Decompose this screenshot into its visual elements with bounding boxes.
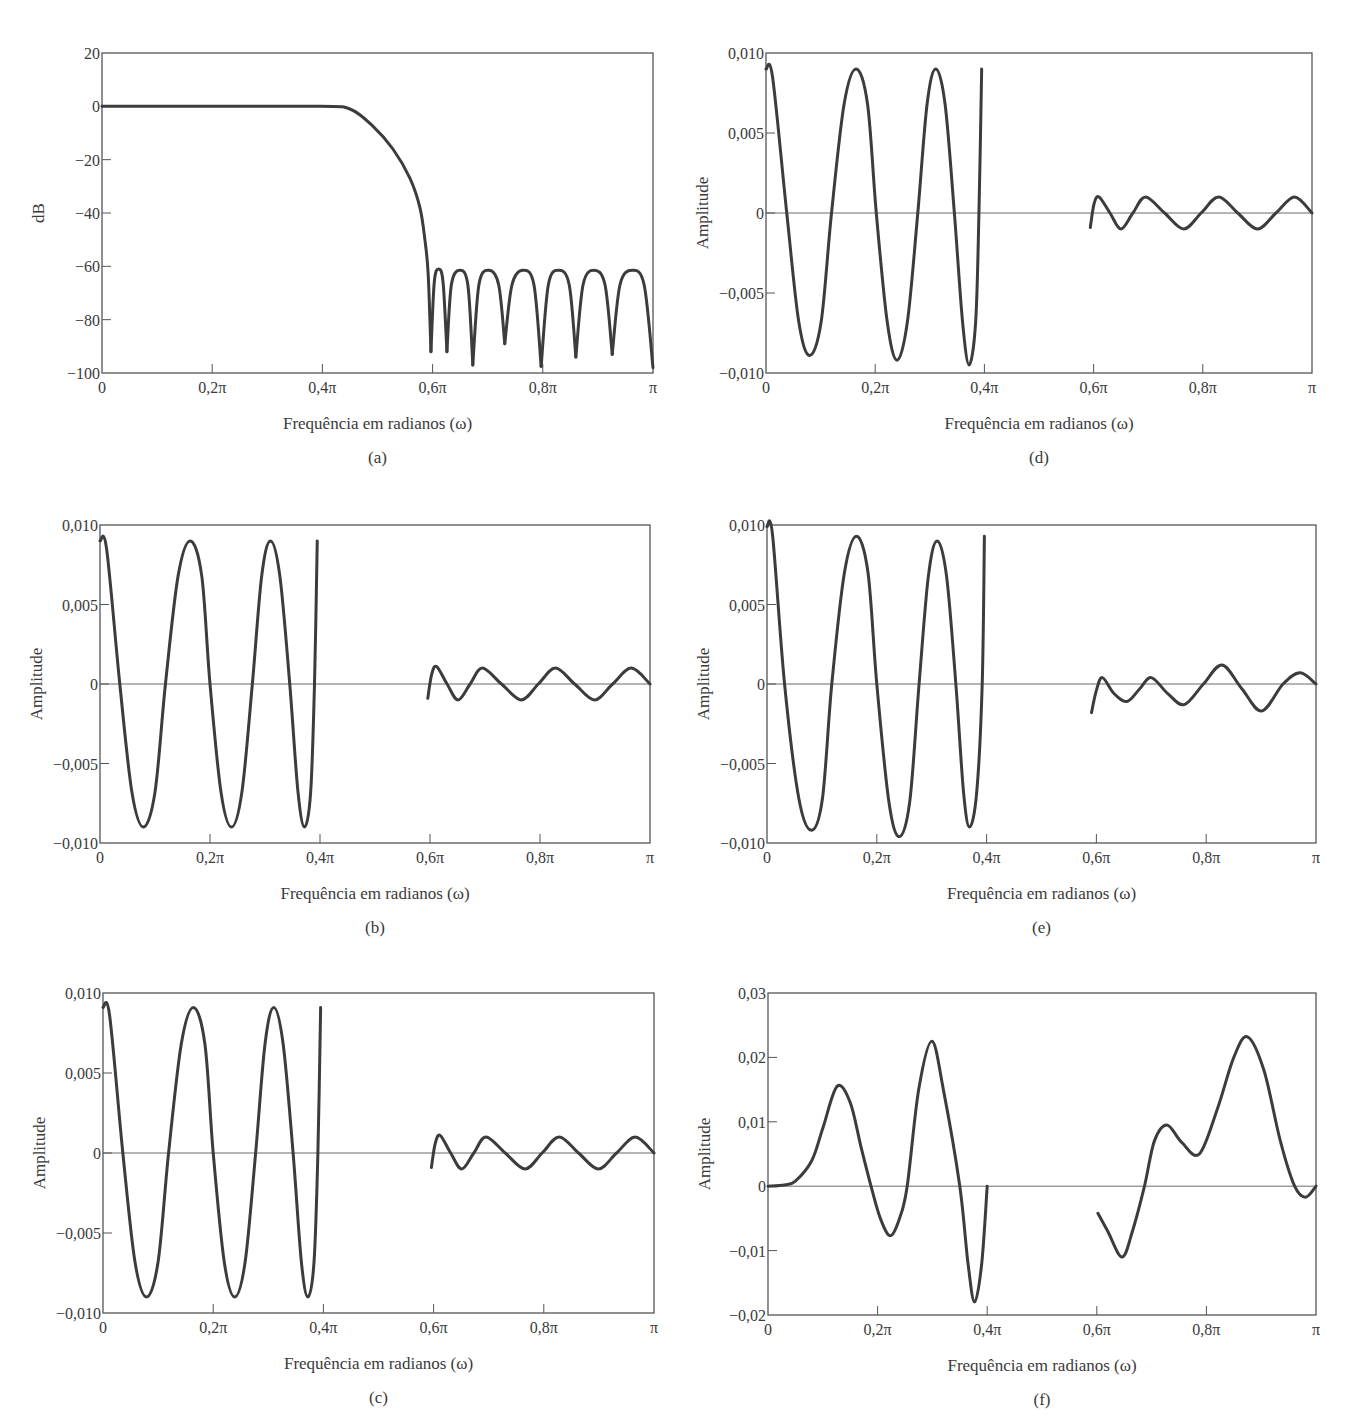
y-tick-label: −60 [75,258,100,275]
panel-label: (c) [369,1388,388,1407]
x-tick-label: 0,8π [1189,379,1217,396]
x-tick-label: 0,2π [861,379,889,396]
y-tick-label: −100 [67,365,100,382]
x-axis-title: Frequência em radianos (ω) [947,884,1136,903]
y-tick-label: 0,010 [729,517,765,534]
x-tick-label: 0,4π [306,849,334,866]
y-axis-title: Amplitude [695,1118,714,1191]
y-tick-label: −0,005 [719,285,764,302]
x-tick-label: 0,4π [308,379,336,396]
x-tick-label: 0,4π [973,1321,1001,1338]
x-tick-label: 0,8π [526,849,554,866]
panel-label: (f) [1034,1390,1051,1409]
x-tick-label: 0 [762,379,770,396]
x-tick-label: 0,6π [416,849,444,866]
x-tick-label: 0,6π [1080,379,1108,396]
y-tick-label: 0,01 [738,1114,766,1131]
x-tick-label: 0 [764,1321,772,1338]
y-tick-label: 0,010 [65,985,101,1002]
y-tick-label: 0 [756,205,764,222]
y-tick-label: 0,010 [62,517,98,534]
y-tick-label: 0,005 [729,597,765,614]
series-a-segment-2 [431,269,447,352]
y-tick-label: 0,02 [738,1049,766,1066]
series-d-segment-1 [766,64,982,365]
y-tick-label: −0,005 [720,756,765,773]
series-c-segment-2 [431,1135,654,1169]
y-tick-label: 0,005 [728,125,764,142]
y-tick-label: 0,010 [728,45,764,62]
y-tick-label: 0 [92,98,100,115]
x-tick-label: 0 [99,1319,107,1336]
y-tick-label: −0,005 [56,1225,101,1242]
series-a-segment-6 [541,270,576,366]
x-tick-label: 0,2π [198,379,226,396]
panel-e: 0,0100,0050−0,005−0,01000,2π0,4π0,6π0,8π… [694,517,1320,937]
panel-label: (e) [1032,918,1051,937]
x-tick-label: 0,4π [970,379,998,396]
x-tick-label: 0 [763,849,771,866]
x-tick-label: 0,2π [199,1319,227,1336]
x-tick-label: 0,4π [309,1319,337,1336]
x-axis-title: Frequência em radianos (ω) [947,1356,1136,1375]
x-tick-label: 0,8π [530,1319,558,1336]
series-b-segment-2 [428,666,650,700]
y-tick-label: −80 [75,312,100,329]
x-tick-label: 0,4π [973,849,1001,866]
x-axis-title: Frequência em radianos (ω) [283,414,472,433]
x-tick-label: 0 [96,849,104,866]
x-tick-label: π [1312,849,1320,866]
x-tick-label: 0,6π [420,1319,448,1336]
y-tick-label: −0,02 [729,1307,766,1324]
series-a-segment-8 [612,270,653,367]
x-axis-title: Frequência em radianos (ω) [280,884,469,903]
series-a-segment-7 [576,270,612,357]
y-axis-title: dB [29,203,48,223]
y-tick-label: 0,005 [62,597,98,614]
y-tick-label: 0 [90,676,98,693]
x-tick-label: 0,8π [1192,849,1220,866]
panel-f: 0,030,020,010−0,01−0,0200,2π0,4π0,6π0,8π… [695,985,1320,1409]
y-tick-label: 0,03 [738,985,766,1002]
figure-canvas: 200−20−40−60−80−10000,2π0,4π0,6π0,8ππdBF… [0,0,1349,1428]
x-tick-label: 0 [98,379,106,396]
x-axis-title: Frequência em radianos (ω) [944,414,1133,433]
x-tick-label: 0,8π [1192,1321,1220,1338]
x-tick-label: π [650,1319,658,1336]
series-f-segment-1 [768,1041,987,1302]
series-e-segment-1 [767,521,984,837]
y-tick-label: 0 [757,676,765,693]
x-tick-label: π [649,379,657,396]
series-a-segment-3 [447,270,473,365]
series-e-segment-2 [1091,665,1316,713]
panel-label: (a) [368,448,387,467]
x-tick-label: 0,2π [863,849,891,866]
y-tick-label: 0 [93,1145,101,1162]
series-f-segment-2 [1098,1037,1316,1258]
series-a-segment-5 [505,270,541,366]
series-b-segment-1 [100,536,317,827]
y-tick-label: 0,005 [65,1065,101,1082]
series-c-segment-1 [103,1002,321,1297]
y-tick-label: −40 [75,205,100,222]
y-tick-label: −0,010 [719,365,764,382]
y-axis-title: Amplitude [693,177,712,250]
y-axis-title: Amplitude [30,1117,49,1190]
panel-d: 0,0100,0050−0,005−0,01000,2π0,4π0,6π0,8π… [693,45,1316,467]
y-tick-label: 20 [84,45,100,62]
x-tick-label: 0,2π [196,849,224,866]
panel-c: 0,0100,0050−0,005−0,01000,2π0,4π0,6π0,8π… [30,985,658,1407]
panel-label: (d) [1029,448,1049,467]
y-axis-title: Amplitude [694,648,713,721]
y-tick-label: 0 [758,1178,766,1195]
plot-frame [768,993,1316,1315]
plot-frame [102,53,653,373]
series-a-segment-1 [102,106,431,352]
y-axis-title: Amplitude [27,648,46,721]
x-axis-title: Frequência em radianos (ω) [284,1354,473,1373]
y-tick-label: −0,010 [56,1305,101,1322]
panel-a: 200−20−40−60−80−10000,2π0,4π0,6π0,8ππdBF… [29,45,657,467]
panel-b: 0,0100,0050−0,005−0,01000,2π0,4π0,6π0,8π… [27,517,654,937]
x-tick-label: 0,2π [864,1321,892,1338]
x-tick-label: 0,6π [1082,849,1110,866]
